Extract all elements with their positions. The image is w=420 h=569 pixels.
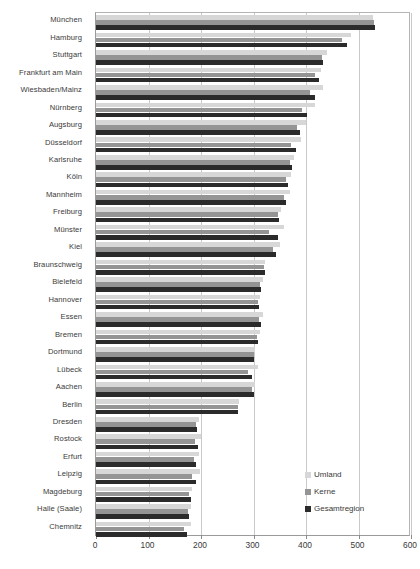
bar-umland (96, 103, 315, 108)
bar-kerne (96, 108, 302, 113)
bar-kerne (96, 439, 195, 444)
bar-umland (96, 137, 301, 142)
legend-swatch-icon (305, 489, 311, 495)
bar-kerne (96, 265, 264, 270)
legend-item-gesamtregion[interactable]: Gesamtregion (305, 500, 397, 517)
legend-label: Umland (314, 470, 342, 479)
bar-umland (96, 452, 199, 457)
category-label: München (0, 16, 82, 24)
bar-umland (96, 330, 260, 335)
bar-umland (96, 207, 281, 212)
bar-umland (96, 242, 280, 247)
bar-umland (96, 50, 327, 55)
legend-item-kerne[interactable]: Kerne (305, 483, 397, 500)
bar-umland (96, 295, 260, 300)
bar-group (96, 258, 411, 277)
bar-umland (96, 399, 239, 404)
category-label: Stuttgart (0, 51, 82, 59)
category-label: Lübeck (0, 366, 82, 374)
bar-group (96, 188, 411, 207)
bar-gesamtregion (96, 340, 258, 345)
category-label: Magdeburg (0, 488, 82, 496)
legend-item-umland[interactable]: Umland (305, 466, 397, 483)
bar-umland (96, 382, 255, 387)
category-label: Mannheim (0, 191, 82, 199)
bar-group (96, 83, 411, 102)
bar-group (96, 153, 411, 172)
category-label: Münster (0, 226, 82, 234)
bar-group (96, 310, 411, 329)
category-label: Bielefeld (0, 278, 82, 286)
bar-gesamtregion (96, 165, 292, 170)
category-label: Freiburg (0, 208, 82, 216)
legend-swatch-icon (305, 472, 311, 478)
category-label: Wiesbaden/Mainz (0, 86, 82, 94)
category-label: Nürnberg (0, 104, 82, 112)
bar-gesamtregion (96, 95, 315, 100)
bar-gesamtregion (96, 25, 375, 30)
bar-umland (96, 225, 284, 230)
bar-umland (96, 347, 255, 352)
category-label: Aachen (0, 383, 82, 391)
plot-area (95, 12, 410, 536)
bar-chart: MünchenHamburgStuttgartFrankfurt am Main… (0, 0, 420, 569)
bar-kerne (96, 335, 257, 340)
bar-kerne (96, 195, 284, 200)
x-axis-label-100: 100 (141, 540, 155, 550)
bar-umland (96, 85, 323, 90)
bar-gesamtregion (96, 235, 278, 240)
bar-group (96, 65, 411, 84)
bar-kerne (96, 370, 248, 375)
bar-kerne (96, 422, 196, 427)
bar-kerne (96, 160, 290, 165)
bar-umland (96, 312, 263, 317)
category-label: Hannover (0, 296, 82, 304)
category-label: Augsburg (0, 121, 82, 129)
bar-kerne (96, 90, 310, 95)
category-label: Frankfurt am Main (0, 69, 82, 77)
x-axis-tick-labels: 0100200300400500600 (0, 540, 420, 556)
bar-group (96, 170, 411, 189)
bar-umland (96, 469, 200, 474)
bar-kerne (96, 457, 194, 462)
category-label: Kiel (0, 243, 82, 251)
x-axis-label-0: 0 (93, 540, 98, 550)
bar-gesamtregion (96, 480, 196, 485)
bar-kerne (96, 230, 269, 235)
bar-group (96, 327, 411, 346)
bar-group (96, 397, 411, 416)
bar-umland (96, 172, 291, 177)
bar-kerne (96, 405, 238, 410)
bar-kerne (96, 73, 315, 78)
category-label: Essen (0, 313, 82, 321)
bar-umland (96, 434, 201, 439)
bar-kerne (96, 352, 254, 357)
bar-umland (96, 417, 199, 422)
category-label: Leipzig (0, 470, 82, 478)
category-label: Karlsruhe (0, 156, 82, 164)
bar-gesamtregion (96, 148, 296, 153)
bar-group (96, 100, 411, 119)
gridline-600 (411, 13, 412, 535)
bar-kerne (96, 527, 184, 532)
bar-kerne (96, 177, 286, 182)
bar-group (96, 415, 411, 434)
bar-gesamtregion (96, 462, 196, 467)
category-label: Rostock (0, 435, 82, 443)
bar-group (96, 275, 411, 294)
bar-kerne (96, 474, 192, 479)
bar-gesamtregion (96, 514, 189, 519)
bar-kerne (96, 282, 260, 287)
bar-gesamtregion (96, 287, 261, 292)
category-label-column: MünchenHamburgStuttgartFrankfurt am Main… (0, 12, 86, 536)
bar-kerne (96, 492, 189, 497)
bar-group (96, 362, 411, 381)
bar-group (96, 135, 411, 154)
bar-gesamtregion (96, 252, 276, 257)
bar-kerne (96, 509, 188, 514)
category-label: Dresden (0, 418, 82, 426)
bar-gesamtregion (96, 410, 238, 415)
bar-group (96, 380, 411, 399)
bar-group (96, 432, 411, 451)
bar-group (96, 118, 411, 137)
